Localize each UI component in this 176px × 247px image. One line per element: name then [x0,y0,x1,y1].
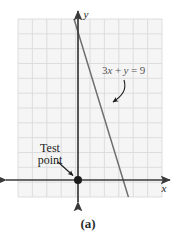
equation-rhs: 9 [140,64,146,76]
equation-label: 3x+y=9 [102,64,146,76]
y-axis-label: y [83,8,89,20]
test-point-marker [74,176,82,184]
x-axis-label: x [161,182,167,194]
figure-caption: (a) [80,216,95,231]
coordinate-grid [18,19,162,197]
equation-var-x: x [107,64,113,76]
figure-container: x y Test point 3x+y=9 (a) [0,0,176,247]
test-point-label-line2: point [38,153,63,167]
graph-figure: x y Test point 3x+y=9 (a) [0,0,176,247]
equation-var-y: y [123,64,129,76]
equation-plus-sign: + [115,64,121,76]
equation-equals-sign: = [131,64,137,76]
